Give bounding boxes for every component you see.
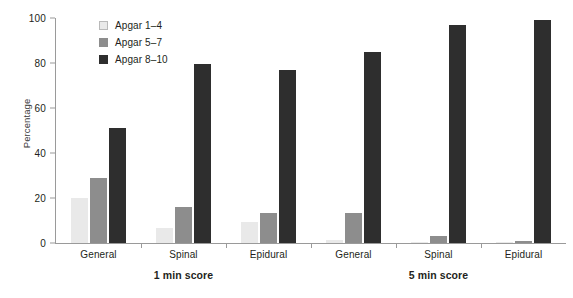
x-axis-category-label: Spinal [396, 249, 481, 260]
x-axis-category-label: Spinal [141, 249, 226, 260]
x-axis-group-separator [226, 243, 227, 248]
bar [109, 128, 126, 243]
x-axis-group-separator [481, 243, 482, 248]
y-axis-tick-mark [50, 18, 55, 19]
x-axis-category-label: Epidural [226, 249, 311, 260]
x-axis-group-separator [311, 243, 312, 248]
y-axis-tick-label: 0 [0, 238, 46, 249]
y-axis-tick-label: 100 [0, 13, 46, 24]
y-axis-tick-mark [50, 198, 55, 199]
bar-group [481, 18, 566, 243]
chart-legend: Apgar 1–4Apgar 5–7Apgar 8–10 [99, 18, 168, 69]
x-axis-group-separator [141, 243, 142, 248]
legend-label: Apgar 1–4 [115, 20, 162, 31]
bar [241, 222, 258, 243]
bar [71, 198, 88, 243]
bar [279, 70, 296, 243]
x-axis-category-label: General [311, 249, 396, 260]
y-axis-tick-label: 20 [0, 193, 46, 204]
y-axis-tick-label: 40 [0, 148, 46, 159]
bar [326, 240, 343, 243]
bar [449, 25, 466, 243]
legend-item: Apgar 5–7 [99, 35, 168, 50]
bar [260, 213, 277, 243]
y-axis-tick-mark [50, 108, 55, 109]
y-axis-tick-mark [50, 153, 55, 154]
legend-label: Apgar 8–10 [115, 54, 168, 65]
apgar-percentage-bar-chart: Percentage 020406080100 GeneralSpinalEpi… [0, 0, 573, 298]
bar-group [311, 18, 396, 243]
bar [515, 241, 532, 243]
bar [364, 52, 381, 243]
bar [345, 213, 362, 243]
legend-swatch-icon [99, 55, 108, 64]
bar-group [226, 18, 311, 243]
bar [534, 20, 551, 243]
bar [194, 64, 211, 243]
legend-item: Apgar 8–10 [99, 52, 168, 67]
y-axis-tick-label: 60 [0, 103, 46, 114]
bar [430, 236, 447, 243]
legend-swatch-icon [99, 38, 108, 47]
x-axis-group-separator [396, 243, 397, 248]
x-axis-category-label: Epidural [481, 249, 566, 260]
bar [90, 178, 107, 243]
x-axis-category-label: General [56, 249, 141, 260]
legend-swatch-icon [99, 21, 108, 30]
bar-group [396, 18, 481, 243]
bar [496, 242, 513, 243]
legend-item: Apgar 1–4 [99, 18, 168, 33]
y-axis-title: Percentage [21, 64, 32, 184]
y-axis-tick-label: 80 [0, 58, 46, 69]
y-axis-tick-mark [50, 63, 55, 64]
legend-label: Apgar 5–7 [115, 37, 162, 48]
x-axis-section-label: 5 min score [311, 269, 566, 281]
x-axis-section-label: 1 min score [56, 269, 311, 281]
bar [175, 207, 192, 243]
bar [411, 242, 428, 243]
bar [156, 228, 173, 243]
